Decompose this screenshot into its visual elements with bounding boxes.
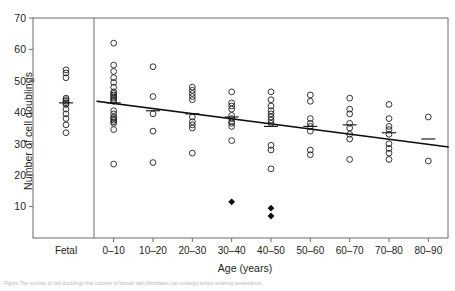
x-axis-title: Age (years) [100,262,390,274]
data-point-circle [268,97,274,103]
series-40-50-syndrome- [268,205,275,220]
plot-frame [33,18,448,238]
y-axis-title: Number of cell doublings [22,41,34,221]
data-point-diamond [268,213,275,220]
series-70-80 [382,102,396,163]
series-50-60 [303,92,317,158]
series-80-90 [421,114,435,164]
data-point-circle [63,130,69,136]
x-tick-label: 60–70 [336,245,364,256]
figure-caption: Figure The number of cell doublings that… [4,280,454,286]
x-tick-label: 20–30 [178,245,206,256]
data-point-circle [150,128,156,134]
data-point-circle [386,157,392,163]
data-point-circle [111,62,117,68]
series-40-50 [264,89,278,172]
data-point-circle [425,114,431,120]
data-point-circle [347,95,353,101]
series-30-40-syndrome- [228,198,235,205]
data-point-circle [229,138,235,144]
x-tick-label: 70–80 [375,245,403,256]
series-60-70 [343,95,357,162]
x-tick-label: 40–50 [257,245,285,256]
x-tick-label: 50–60 [296,245,324,256]
data-point-circle [189,150,195,156]
data-point-circle [63,122,69,128]
data-point-circle [111,69,117,75]
series-20-30 [185,84,199,156]
data-point-circle [150,64,156,70]
data-point-circle [111,40,117,46]
data-point-circle [150,111,156,117]
data-point-circle [111,161,117,167]
x-tick-label: 10–20 [139,245,167,256]
data-point-circle [307,98,313,104]
data-point-circle [347,157,353,163]
series-fetal [59,67,73,136]
series-10-20 [146,64,160,166]
x-tick-label: Fetal [55,245,77,256]
data-point-circle [150,94,156,100]
data-point-diamond [228,198,235,205]
data-point-circle [268,166,274,172]
x-tick-label: 30–40 [218,245,246,256]
series-30-40 [225,89,239,144]
scatter-plot: 10203040506070Fetal0–1010–2020–3030–4040… [0,0,455,260]
data-point-circle [111,127,117,133]
data-point-circle [229,89,235,95]
figure-panel: Number of cell doublings Age (years) 102… [0,0,455,291]
y-tick-label: 70 [14,12,26,24]
x-tick-label: 0–10 [103,245,126,256]
data-point-circle [150,160,156,166]
x-tick-label: 80–90 [414,245,442,256]
data-point-circle [386,102,392,108]
data-point-circle [307,92,313,98]
data-point-circle [425,158,431,164]
data-point-circle [268,89,274,95]
data-point-diamond [268,205,275,212]
data-point-circle [386,116,392,122]
